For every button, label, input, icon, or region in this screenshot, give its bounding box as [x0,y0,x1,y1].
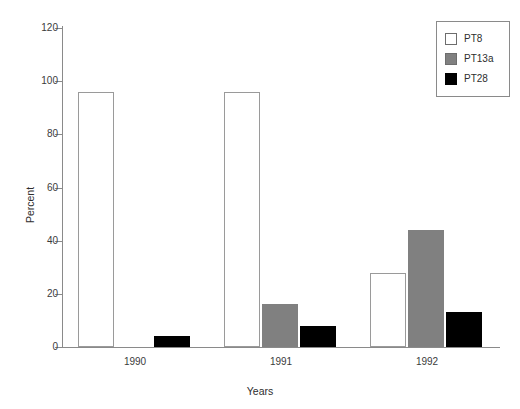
y-axis-tick-label: 20 [47,289,58,299]
bar-pt8-1991 [224,92,260,347]
legend-label-pt8: PT8 [464,34,482,44]
y-axis-tick-label: 60 [47,183,58,193]
bar-chart: Percent Years 020406080100120 PT8 PT13a … [0,0,520,409]
x-axis-tick-label: 1991 [270,356,292,367]
bar-pt8-1992 [370,273,406,347]
x-axis-tick-label: 1990 [124,356,146,367]
black-square-swatch-icon [445,73,457,85]
x-axis-tick-label: 1992 [416,356,438,367]
legend-label-pt28: PT28 [464,74,488,84]
bar-pt28-1990 [154,336,190,347]
y-axis-tick-label: 0 [52,342,58,352]
bar-pt13a-1992 [408,230,444,347]
x-axis-title: Years [0,385,520,397]
bar-pt28-1992 [446,312,482,347]
y-axis-tick-label: 120 [41,23,58,33]
y-axis-tick-label: 40 [47,236,58,246]
bar-pt13a-1991 [262,304,298,347]
legend-item-pt8: PT8 [445,29,503,49]
x-axis-line [62,347,500,348]
legend-label-pt13a: PT13a [464,54,493,64]
y-axis-title: Percent [24,186,36,222]
y-axis-tick-label: 100 [41,76,58,86]
y-axis-tick-label: 80 [47,129,58,139]
bar-pt8-1990 [78,92,114,347]
legend-item-pt28: PT28 [445,69,503,89]
legend-item-pt13a: PT13a [445,49,503,69]
chart-legend: PT8 PT13a PT28 [436,21,510,97]
bar-pt28-1991 [300,326,336,347]
gray-square-swatch-icon [445,53,457,65]
white-square-swatch-icon [445,33,457,45]
plot-area: 020406080100120 [62,28,500,347]
